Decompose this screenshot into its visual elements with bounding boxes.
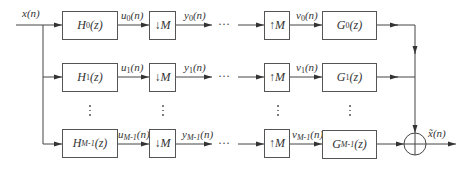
input-signal-label: x(n): [22, 7, 40, 19]
signal-u0-label: u0(n): [121, 9, 143, 23]
signal-subscript: M-1: [124, 133, 137, 142]
filter-symbol: G: [337, 18, 346, 33]
signal-subscript: M-1: [297, 133, 310, 142]
signal-vm1-label: vM-1(n): [292, 128, 323, 142]
expander-block-0: ↑M: [264, 11, 290, 40]
filter-symbol: H: [77, 70, 86, 85]
signal-u1-label: u1(n): [121, 61, 143, 75]
signal-argument: (n): [200, 128, 213, 140]
expander-block-1: ↑M: [264, 63, 290, 92]
vertical-ellipsis-synthesis: [349, 105, 351, 119]
vertical-ellipsis-decimator: [162, 105, 164, 119]
analysis-filter-h1: H1(z): [62, 63, 118, 92]
ellipsis-row-m1: ···: [218, 136, 230, 151]
signal-y0-label: y0(n): [184, 9, 206, 23]
filter-argument: (z): [350, 70, 363, 85]
vertical-ellipsis-analysis: [89, 105, 91, 119]
analysis-filter-h0: H0(z): [62, 11, 118, 40]
vertical-ellipsis-expander: [277, 105, 279, 119]
filter-argument: (z): [90, 18, 103, 33]
signal-argument: (n): [131, 9, 144, 21]
decimator-block-m1: ↓M: [149, 129, 176, 158]
signal-argument: (n): [193, 61, 206, 73]
ellipsis-row-0: ···: [218, 17, 230, 32]
decimator-block-1: ↓M: [149, 63, 176, 92]
expander-block-m1: ↑M: [264, 129, 290, 158]
filter-argument: (z): [350, 18, 363, 33]
signal-argument: (n): [305, 9, 318, 21]
analysis-filter-hm1: HM-1(z): [62, 129, 118, 158]
signal-ym1-label: yM-1(n): [182, 128, 213, 142]
ellipsis-row-1: ···: [218, 69, 230, 84]
signal-argument: (n): [131, 61, 144, 73]
synthesis-filter-g0: G0(z): [322, 11, 377, 40]
signal-argument: (n): [193, 9, 206, 21]
filter-argument: (z): [354, 137, 367, 152]
synthesis-filter-g1: G1(z): [322, 63, 377, 92]
filter-subscript: M-1: [81, 139, 94, 148]
filter-symbol: H: [77, 18, 86, 33]
decimator-block-0: ↓M: [149, 11, 176, 40]
signal-v0-label: v0(n): [296, 9, 318, 23]
filter-symbol: G: [337, 70, 346, 85]
synthesis-filter-gm1: GM-1(z): [322, 130, 377, 159]
filter-subscript: M-1: [341, 140, 354, 149]
filter-bank-diagram: x(n) H0(z) u0(n) ↓M y0(n) ··· ↑M v0(n) G…: [0, 0, 467, 172]
signal-y1-label: y1(n): [184, 61, 206, 75]
signal-argument: (n): [137, 128, 150, 140]
filter-argument: (z): [95, 136, 108, 151]
filter-argument: (z): [90, 70, 103, 85]
signal-subscript: M-1: [187, 133, 200, 142]
signal-um1-label: uM-1(n): [118, 128, 150, 142]
signal-argument: (n): [305, 61, 318, 73]
filter-symbol: G: [332, 137, 341, 152]
output-signal-label: x̃(n): [428, 127, 446, 139]
signal-v1-label: v1(n): [296, 61, 318, 75]
